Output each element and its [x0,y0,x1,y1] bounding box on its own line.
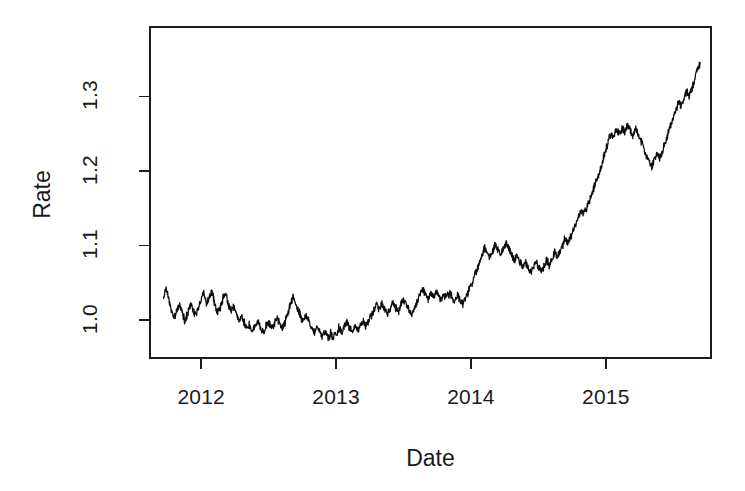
chart-figure: 2012201320142015 1.01.11.21.3 Rate Date [0,0,745,491]
x-tick-label: 2015 [574,385,638,409]
rate-line-series [163,62,700,340]
x-axis-ticks [201,358,606,369]
x-tick-label: 2014 [439,385,503,409]
y-axis-ticks [139,96,150,320]
y-tick-label: 1.2 [78,140,102,200]
y-tick-label: 1.1 [78,214,102,274]
x-tick-label: 2012 [169,385,233,409]
x-tick-label: 2013 [304,385,368,409]
y-tick-label: 1.3 [78,65,102,125]
data-series-group [163,62,700,340]
y-axis-title: Rate [29,134,56,254]
y-tick-label: 1.0 [78,289,102,349]
x-axis-title: Date [371,445,491,472]
plot-canvas [0,0,745,491]
